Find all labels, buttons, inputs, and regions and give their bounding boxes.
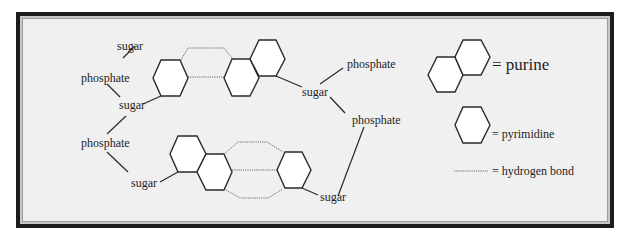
backbone-bond [330,97,345,113]
backbone-bond [143,96,161,104]
legend-label: = hydrogen bond [492,164,574,178]
hydrogen-bond-line [224,189,283,198]
base-pair-diagram: sugar phosphate sugar sugar phosphate ph… [0,0,633,239]
phosphate-label: phosphate [81,71,130,85]
legend-item-pyrimidine: = pyrimidine [455,107,554,143]
bottom-base-pair [170,136,311,198]
top-base-pair [153,40,285,96]
pyrimidine-hexagon [277,152,311,188]
backbone-bond [320,68,343,84]
backbone-bond [107,84,120,97]
legend-label: = purine [492,55,549,74]
backbone-bond [302,188,318,195]
pyrimidine-icon [455,107,490,143]
sugar-label: sugar [131,176,157,190]
phosphate-label: phosphate [347,57,396,71]
purine-icon [455,40,490,75]
sugar-label: sugar [117,39,143,53]
phosphate-label: phosphate [352,113,401,127]
phosphate-label: phosphate [81,136,130,150]
sugar-label: sugar [119,98,145,112]
backbone-bond [107,116,126,134]
backbone-bond [160,172,178,182]
backbone-bond [107,152,128,172]
backbone-bond [338,127,364,196]
hydrogen-bond-line [223,142,283,155]
hydrogen-bond-line [181,48,232,60]
legend-label: = pyrimidine [492,127,554,141]
legend: = purine = pyrimidine = hydrogen bond [428,40,574,178]
legend-item-purine: = purine [428,40,549,92]
backbone-bond [276,76,302,87]
legend-item-hydrogen-bond: = hydrogen bond [454,164,574,178]
sugar-label: sugar [302,85,328,99]
pyrimidine-hexagon [153,60,188,96]
sugar-label: sugar [320,190,346,204]
